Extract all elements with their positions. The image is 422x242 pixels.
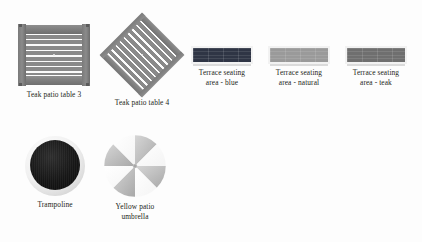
teak-patio-table-3-thumbnail[interactable] <box>18 24 90 86</box>
asset-palette-canvas: Teak patio table 3 Teak patio table 4 Te… <box>0 0 422 242</box>
asset-item-terrace-seating-area-blue[interactable]: Terrace seating area - blue <box>191 46 253 87</box>
teak-patio-table-4-thumbnail[interactable] <box>103 16 181 94</box>
seat-cushion-surface <box>193 48 252 63</box>
seat-cushion-surface <box>270 48 329 63</box>
asset-label: Yellow patio umbrella <box>116 202 155 221</box>
asset-label: Trampoline <box>37 200 72 210</box>
rotated-table-group <box>102 15 181 94</box>
asset-label: Terrace seating area - natural <box>276 68 322 87</box>
umbrella-canopy-icon <box>103 134 167 198</box>
asset-item-terrace-seating-area-teak[interactable]: Terrace seating area - teak <box>345 46 407 87</box>
trampoline-thumbnail[interactable] <box>25 136 85 196</box>
yellow-patio-umbrella-thumbnail[interactable] <box>103 134 167 198</box>
asset-item-yellow-patio-umbrella[interactable]: Yellow patio umbrella <box>103 134 167 221</box>
table-corner-bolt <box>19 24 22 27</box>
seat-cushion-surface <box>347 48 406 63</box>
asset-label: Terrace seating area - blue <box>199 68 245 87</box>
table-bottom-rail <box>20 76 88 85</box>
table-right-rail <box>82 24 90 86</box>
table-corner-bolt <box>86 24 89 27</box>
table-corner-bolt <box>19 83 22 86</box>
asset-label: Teak patio table 4 <box>115 98 169 108</box>
table-corner-bolt <box>86 83 89 86</box>
asset-item-trampoline[interactable]: Trampoline <box>25 136 85 210</box>
terrace-seating-blue-thumbnail[interactable] <box>191 46 253 64</box>
asset-item-terrace-seating-area-natural[interactable]: Terrace seating area - natural <box>268 46 330 87</box>
asset-item-teak-patio-table-4[interactable]: Teak patio table 4 <box>103 16 181 108</box>
trampoline-jump-mat <box>30 140 80 190</box>
table-top-rail <box>20 25 88 34</box>
asset-label: Teak patio table 3 <box>27 90 81 100</box>
terrace-seating-teak-thumbnail[interactable] <box>345 46 407 64</box>
umbrella-hub <box>133 164 138 169</box>
asset-item-teak-patio-table-3[interactable]: Teak patio table 3 <box>18 24 90 100</box>
asset-label: Terrace seating area - teak <box>353 68 399 87</box>
terrace-seating-natural-thumbnail[interactable] <box>268 46 330 64</box>
table-left-rail <box>18 24 26 86</box>
